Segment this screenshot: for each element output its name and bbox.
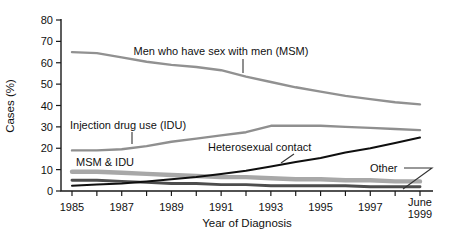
y-axis-tick-label: 60	[41, 57, 53, 69]
series-annotation-label: Injection drug use (IDU)	[70, 119, 186, 131]
x-axis-tick-label: June	[408, 196, 432, 208]
x-axis-title: Year of Diagnosis	[202, 217, 292, 229]
aids-cases-by-exposure-chart: 0102030405060708019851987198919911993199…	[0, 0, 451, 244]
series-annotation-label: Men who have sex with men (MSM)	[134, 45, 309, 57]
y-axis-tick-label: 30	[41, 121, 53, 133]
series-line-msm	[72, 52, 420, 104]
y-axis-title: Cases (%)	[4, 79, 16, 133]
series-annotation-label: Heterosexual contact	[208, 141, 311, 153]
y-axis-tick-label: 80	[41, 14, 53, 26]
y-axis-tick-label: 50	[41, 78, 53, 90]
y-axis-tick-label: 40	[41, 100, 53, 112]
x-axis-tick-label: 1985	[60, 201, 84, 213]
x-axis-tick-label: 1995	[308, 201, 332, 213]
series-line-msm-idu	[72, 172, 420, 182]
series-annotation-label: Other	[370, 162, 398, 174]
series-annotation-label: MSM & IDU	[76, 156, 134, 168]
y-axis-tick-label: 0	[47, 185, 53, 197]
x-axis-tick-label: 1999	[408, 208, 432, 220]
annotation-leader-line	[281, 154, 294, 163]
x-axis-tick-label: 1997	[358, 201, 382, 213]
x-axis-tick-label: 1993	[259, 201, 283, 213]
y-axis-tick-label: 20	[41, 142, 53, 154]
x-axis-tick-label: 1987	[109, 201, 133, 213]
chart-canvas: 0102030405060708019851987198919911993199…	[0, 0, 451, 244]
y-axis-tick-label: 70	[41, 35, 53, 47]
x-axis-tick-label: 1989	[159, 201, 183, 213]
y-axis-tick-label: 10	[41, 164, 53, 176]
x-axis-tick-label: 1991	[209, 201, 233, 213]
